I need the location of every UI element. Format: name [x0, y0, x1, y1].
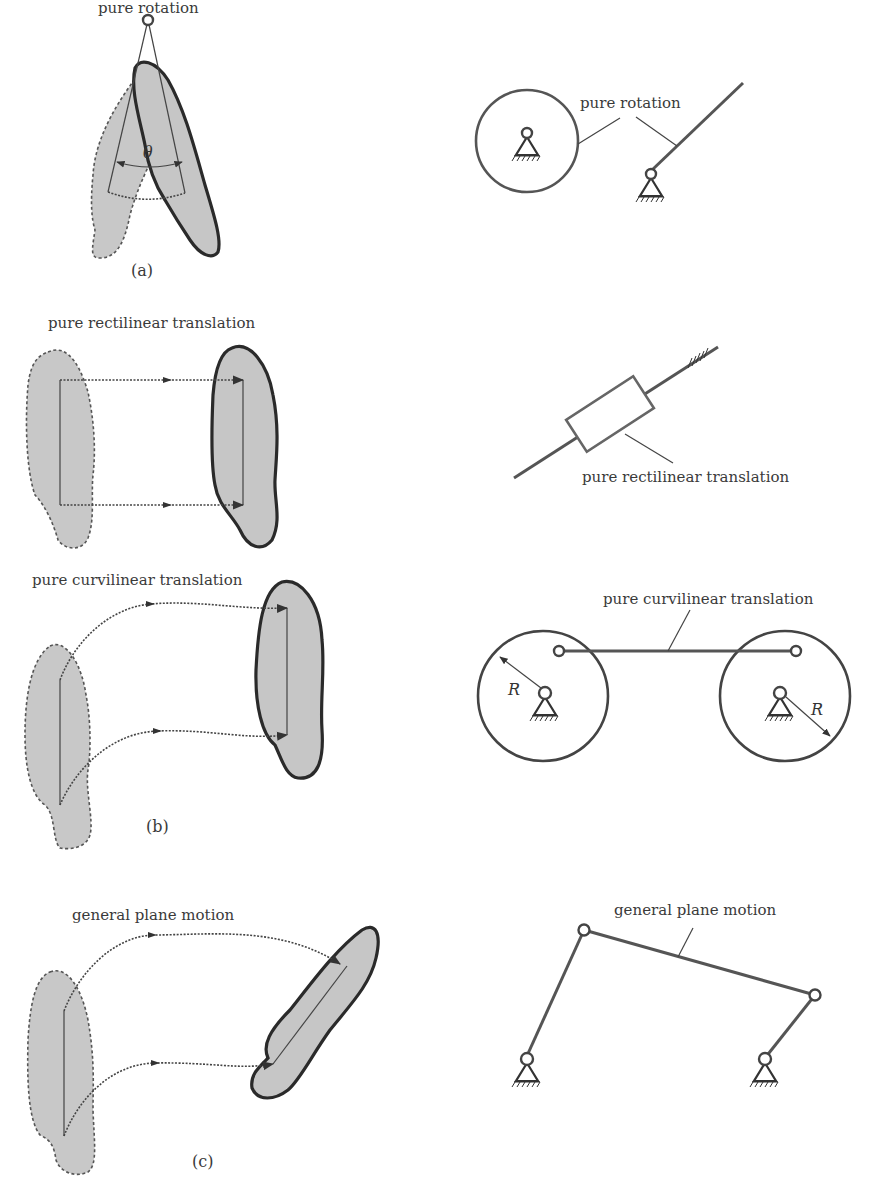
- crank-link-left: [526, 930, 584, 1058]
- panel-b-curvilinear-left-diagram: pure curvilinear translation (b): [25, 571, 323, 849]
- joint-pin-top-left: [579, 925, 590, 936]
- moved-body-outline: [252, 927, 378, 1098]
- label-general-plane-right: general plane motion: [614, 901, 776, 919]
- joint-pin-right: [810, 990, 821, 1001]
- caption-b: (b): [146, 817, 169, 836]
- slider-block: [566, 376, 654, 451]
- panel-b-rectilinear-right-diagram: pure rectilinear translation: [514, 347, 789, 486]
- link-ground-support: [636, 169, 664, 202]
- ground-support-left: [530, 687, 558, 721]
- coupler-pin-left: [554, 646, 564, 656]
- disk-ground-support: [512, 128, 540, 161]
- coupler-pin-right: [791, 646, 801, 656]
- crank-link-right: [765, 995, 815, 1058]
- leader-to-link: [636, 117, 677, 146]
- panel-c-right-diagram: general plane motion: [512, 901, 821, 1087]
- leader-to-slider: [625, 434, 673, 463]
- initial-body-outline: [28, 971, 95, 1175]
- label-pure-rectilinear-left: pure rectilinear translation: [48, 314, 255, 332]
- label-pure-rectilinear-right: pure rectilinear translation: [582, 468, 789, 486]
- leader-to-coupler: [668, 610, 690, 651]
- ground-support-right: [765, 687, 793, 721]
- panel-a-left-diagram: θ pure rotation (a): [92, 0, 220, 280]
- ground-support-right: [750, 1053, 778, 1087]
- rigid-body-motion-figure: θ pure rotation (a) pure rotation pure r…: [0, 0, 871, 1194]
- panel-b-rectilinear-left-diagram: pure rectilinear translation: [26, 314, 277, 548]
- radius-symbol-left: R: [507, 680, 520, 699]
- label-general-plane-left: general plane motion: [72, 906, 234, 924]
- radius-symbol-right: R: [810, 700, 823, 719]
- label-pure-curvilinear-left: pure curvilinear translation: [32, 571, 243, 589]
- radius-arrow-left: [500, 657, 541, 688]
- caption-c: (c): [192, 1152, 213, 1171]
- panel-b-curvilinear-right-diagram: R R pure curvilinear translation: [478, 590, 850, 761]
- label-pure-rotation-left: pure rotation: [98, 0, 199, 17]
- label-pure-curvilinear-right: pure curvilinear translation: [603, 590, 814, 608]
- translated-body-outline: [256, 582, 323, 779]
- leader-to-coupler: [678, 928, 693, 957]
- translated-body-outline: [212, 346, 277, 546]
- caption-a: (a): [131, 261, 153, 280]
- theta-symbol: θ: [143, 143, 153, 162]
- label-pure-rotation-right: pure rotation: [580, 94, 681, 112]
- initial-body-outline: [25, 645, 91, 849]
- panel-c-left-diagram: general plane motion (c): [28, 906, 378, 1174]
- leader-to-disk: [578, 118, 620, 144]
- ground-support-left: [512, 1053, 540, 1087]
- panel-a-right-diagram: pure rotation: [476, 83, 743, 202]
- coupler-link: [584, 930, 815, 995]
